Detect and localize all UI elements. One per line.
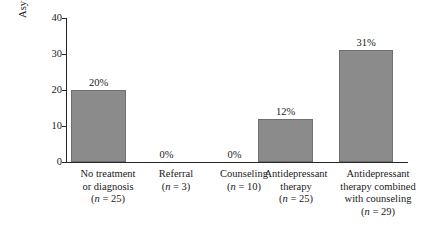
x-axis-line [66, 162, 408, 163]
bar-value-counseling: 0% [207, 149, 262, 160]
y-tick-mark-30 [62, 54, 66, 55]
category-line-3: (n = 25) [56, 193, 160, 206]
category-line-1: Antidepressant [331, 168, 425, 181]
y-tick-label-0: 0 [38, 157, 62, 167]
bar-antidepressant-therapy [258, 119, 313, 162]
category-line-3: with counseling [331, 193, 425, 206]
x-category-label-antidepressant-therapy-with-counseling: Antidepressant therapy combined with cou… [331, 168, 425, 218]
bar-value-no-treatment-or-diagnosis: 20% [71, 77, 126, 88]
bar-no-treatment-or-diagnosis [71, 90, 126, 162]
y-tick-label-40: 40 [38, 13, 62, 23]
bar-value-antidepressant-therapy-with-counseling: 31% [339, 37, 393, 48]
plot-area: 20% 0% 0% 12% 31% [66, 18, 408, 162]
y-tick-mark-40 [62, 18, 66, 19]
category-line-4: (n = 29) [331, 206, 425, 219]
y-axis-title: Asymptomatic patients (%) [16, 0, 30, 32]
bar-value-referral: 0% [139, 149, 194, 160]
y-tick-label-20: 20 [38, 85, 62, 95]
y-tick-label-30: 30 [38, 49, 62, 59]
y-tick-label-10: 10 [38, 121, 62, 131]
y-tick-mark-20 [62, 90, 66, 91]
category-line-2: therapy combined [331, 181, 425, 194]
bar-chart-figure: Asymptomatic patients (%) 40 30 20 10 0 … [0, 0, 425, 230]
bar-value-antidepressant-therapy: 12% [258, 106, 313, 117]
y-tick-mark-0 [62, 162, 66, 163]
y-tick-mark-10 [62, 126, 66, 127]
bar-antidepressant-therapy-with-counseling [339, 50, 393, 162]
y-axis-line [66, 18, 67, 163]
